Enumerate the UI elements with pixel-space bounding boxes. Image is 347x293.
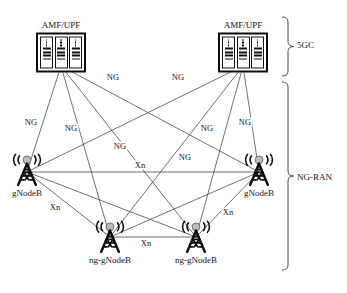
link-label-ng-1: NG	[105, 73, 120, 82]
rack-indicator-dot	[46, 45, 48, 47]
link-label-xn-4: Xn	[139, 239, 152, 248]
rack-indicator-dot	[228, 42, 230, 44]
node-label-ng-gnodeb-left: ng-gNodeB	[89, 255, 131, 266]
brace-region-5gc	[282, 17, 294, 76]
link-label-ng-3: NG	[23, 118, 38, 127]
rack-unit-bar	[72, 55, 80, 57]
rack-unit-bar	[239, 55, 247, 57]
link-label-ng-2: NG	[170, 73, 185, 82]
node-label-amf-upf-left: AMF/UPF	[42, 20, 81, 31]
rack-column	[222, 37, 235, 69]
node-label-gnodeb-right: gNodeB	[244, 188, 274, 199]
rack-unit-bar	[57, 55, 65, 57]
node-gnodeb-right: gNodeB	[239, 153, 279, 199]
rack-column	[55, 37, 68, 69]
rack-column	[237, 37, 250, 69]
rack-column	[40, 37, 53, 69]
link-label-xn-3: Xn	[221, 208, 234, 217]
node-ng-gnodeb-right: ng-gNodeB	[175, 220, 217, 266]
server-rack-icon	[218, 33, 268, 73]
rack-column	[69, 37, 82, 69]
rack-indicator-dot	[75, 39, 77, 41]
region-label-region-ng-ran: NG-RAN	[297, 172, 332, 182]
cell-tower-icon	[239, 153, 279, 187]
cell-tower-icon	[7, 153, 47, 187]
server-rack-icon	[36, 33, 86, 73]
rack-unit-bar	[225, 55, 233, 57]
rack-unit-bar	[254, 48, 262, 50]
rack-unit-bar	[43, 58, 51, 60]
rack-unit-bar	[225, 51, 233, 53]
cell-tower-icon	[90, 220, 130, 254]
brace-region-ng-ran	[282, 82, 294, 270]
rack-unit-bar	[254, 55, 262, 57]
rack-indicator-dot	[242, 39, 244, 41]
rack-unit-bar	[57, 51, 65, 53]
rack-indicator-dot	[75, 42, 77, 44]
rack-unit-bar	[57, 58, 65, 60]
rack-unit-bar	[72, 58, 80, 60]
cell-tower-icon	[176, 220, 216, 254]
node-amf-upf-left: AMF/UPF	[36, 20, 86, 73]
rack-unit-bar	[225, 58, 233, 60]
link-label-ng-7: NG	[112, 142, 127, 151]
rack-unit-bar	[57, 48, 65, 50]
rack-indicator-dot	[257, 45, 259, 47]
network-architecture-diagram: AMF/UPF AMF/UPF gNod	[0, 0, 347, 293]
rack-unit-bar	[239, 58, 247, 60]
rack-indicator-dot	[242, 42, 244, 44]
rack-column	[251, 37, 264, 69]
rack-unit-bar	[239, 51, 247, 53]
rack-indicator-dot	[75, 45, 77, 47]
rack-indicator-dot	[228, 45, 230, 47]
link-label-ng-5: NG	[199, 124, 214, 133]
rack-indicator-dot	[46, 42, 48, 44]
rack-indicator-dot	[242, 45, 244, 47]
rack-unit-bar	[43, 48, 51, 50]
rack-indicator-dot	[257, 39, 259, 41]
rack-unit-bar	[254, 51, 262, 53]
link-label-ng-4: NG	[63, 124, 78, 133]
node-gnodeb-left: gNodeB	[7, 153, 47, 199]
node-amf-upf-right: AMF/UPF	[218, 20, 268, 73]
rack-unit-bar	[43, 55, 51, 57]
node-label-ng-gnodeb-right: ng-gNodeB	[175, 255, 217, 266]
rack-unit-bar	[225, 48, 233, 50]
link-label-xn-1: Xn	[133, 161, 146, 170]
rack-unit-bar	[72, 51, 80, 53]
rack-indicator-dot	[46, 39, 48, 41]
rack-indicator-dot	[60, 39, 62, 41]
node-label-gnodeb-left: gNodeB	[12, 188, 42, 199]
region-label-region-5gc: 5GC	[297, 40, 314, 50]
rack-indicator-dot	[60, 42, 62, 44]
node-ng-gnodeb-left: ng-gNodeB	[89, 220, 131, 266]
rack-unit-bar	[239, 48, 247, 50]
node-label-amf-upf-right: AMF/UPF	[224, 20, 263, 31]
link-label-ng-8: NG	[177, 153, 192, 162]
rack-unit-bar	[43, 51, 51, 53]
rack-unit-bar	[72, 48, 80, 50]
rack-indicator-dot	[60, 45, 62, 47]
rack-unit-bar	[254, 58, 262, 60]
link-label-xn-2: Xn	[48, 203, 61, 212]
link-label-ng-6: NG	[237, 118, 252, 127]
rack-indicator-dot	[257, 42, 259, 44]
rack-indicator-dot	[228, 39, 230, 41]
